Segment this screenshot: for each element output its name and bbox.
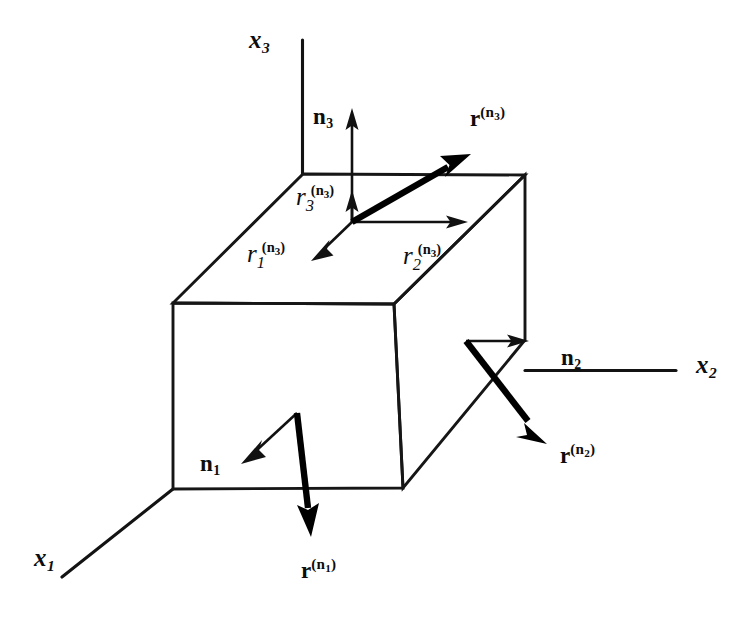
axis-group	[62, 40, 676, 577]
diagram-svg	[0, 0, 744, 618]
right-face-vectors	[466, 335, 547, 445]
top-face-vectors	[311, 108, 471, 261]
box-top-face	[173, 174, 525, 304]
figure-canvas: x3 x2 x1 n1 n2 n3 r(n1) r(n2) r(n3) r1(n…	[0, 0, 744, 618]
traction-r-n1-shaft	[297, 413, 308, 508]
front-face-vectors	[241, 413, 319, 537]
axis-label-x3: x3	[249, 27, 270, 55]
component-label-r3-n3-superscript: (n3)	[311, 182, 334, 198]
traction-label-r-n2-superscript: (n2)	[570, 440, 595, 457]
component-label-r2-n3: r2(n3)	[403, 242, 441, 273]
axis-x1-line	[62, 489, 173, 577]
component-label-r1-n3: r1(n3)	[247, 240, 285, 271]
traction-label-r-n2: r(n2)	[560, 441, 595, 467]
traction-label-r-n3-superscript: (n3)	[480, 103, 505, 120]
traction-label-r-n1-superscript: (n1)	[311, 555, 336, 572]
normal-label-n2: n2	[561, 346, 581, 372]
traction-r-n1-arrowhead	[297, 503, 319, 537]
component-r1-n3-shaft	[325, 222, 352, 248]
axis-label-x1: x1	[34, 545, 55, 573]
normal-n1-shaft	[258, 413, 297, 449]
component-label-r1-n3-superscript: (n3)	[262, 239, 285, 255]
normal-label-n3: n3	[313, 105, 333, 131]
traction-label-r-n3: r(n3)	[470, 104, 505, 130]
traction-label-r-n1: r(n1)	[301, 556, 336, 582]
component-label-r3-n3: r3(n3)	[296, 183, 334, 214]
axis-label-x2: x2	[696, 352, 717, 380]
component-label-r2-n3-superscript: (n3)	[418, 241, 441, 257]
traction-r-n2-arrowhead	[516, 423, 547, 444]
normal-label-n1: n1	[200, 452, 220, 478]
box-group	[173, 174, 525, 489]
traction-r-n2-shaft	[466, 341, 528, 421]
